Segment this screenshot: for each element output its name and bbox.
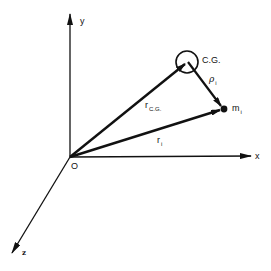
r-cg-label: rC.G. (145, 101, 161, 110)
y-axis-label: y (80, 17, 85, 26)
rho-i-label: ρi (209, 75, 217, 84)
r-cg-label-base: r (145, 100, 148, 110)
cg-circle-marker (176, 51, 198, 73)
z-axis-label: z (22, 249, 26, 256)
cg-label: C.G. (202, 56, 221, 65)
z-axis (12, 157, 70, 253)
origin-label: O (71, 162, 78, 171)
mass-label-subscript: i (241, 109, 242, 115)
r-i-label: ri (157, 136, 162, 145)
vector-r-i (70, 110, 220, 157)
vector-r-cg (70, 64, 185, 157)
diagram-canvas: y x z O C.G. mi rC.G. ri ρi (0, 0, 271, 271)
x-axis-label: x (255, 152, 260, 161)
mass-label: mi (232, 104, 242, 113)
r-cg-label-subscript: C.G. (149, 106, 161, 112)
mass-point-dot (221, 106, 228, 113)
diagram-svg (0, 0, 271, 271)
rho-i-label-base: ρ (209, 74, 214, 84)
r-i-label-base: r (157, 135, 160, 145)
mass-label-base: m (232, 103, 240, 113)
rho-i-label-subscript: i (215, 80, 216, 86)
x-axis (70, 156, 251, 157)
